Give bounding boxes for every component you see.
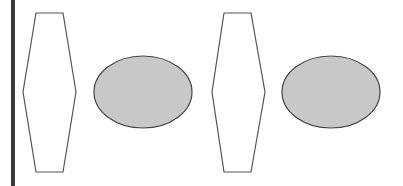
hexagon-shape-2 (212, 13, 265, 172)
left-vertical-bar (11, 0, 15, 186)
hexagon-shape-1 (23, 13, 76, 172)
ellipse-shape-2 (282, 56, 380, 128)
ellipse-shape-1 (94, 56, 192, 128)
diagram-canvas (0, 0, 403, 186)
